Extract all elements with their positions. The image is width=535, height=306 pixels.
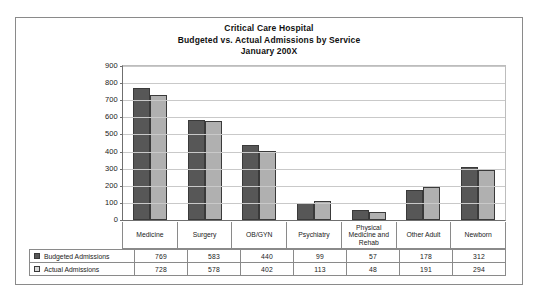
table-row: Actual Admissions72857840211348191294	[30, 263, 505, 276]
gridline	[123, 186, 505, 187]
bar-group	[396, 66, 451, 220]
bar-group	[450, 66, 505, 220]
plot-area	[122, 65, 506, 221]
chart-title-line-3: January 200X	[16, 46, 522, 58]
chart-figure: Critical Care Hospital Budgeted vs. Actu…	[15, 17, 523, 285]
table-value-cell: 769	[135, 250, 188, 262]
legend-swatch-icon	[34, 266, 40, 272]
y-axis-tickmark	[120, 134, 123, 135]
y-axis-tickmark	[120, 66, 123, 67]
legend-swatch-icon	[34, 253, 40, 259]
bar-groups	[123, 66, 505, 220]
bar-group	[123, 66, 178, 220]
y-axis-tickmark	[120, 152, 123, 153]
gridline	[123, 134, 505, 135]
category-label: OB/GYN	[232, 222, 287, 248]
bar	[369, 212, 386, 220]
category-label: Physical Medicine and Rehab	[342, 222, 397, 248]
bar	[461, 167, 478, 220]
y-axis-tickmark	[120, 220, 123, 221]
y-axis-tickmark	[120, 203, 123, 204]
table-value-cell: 578	[188, 263, 241, 275]
y-axis-tick-label: 800	[88, 79, 118, 87]
category-label: Psychiatry	[287, 222, 342, 248]
bar	[150, 95, 167, 220]
bar	[406, 190, 423, 220]
table-value-cell: 728	[135, 263, 188, 275]
bar-group	[232, 66, 287, 220]
table-value-cell: 312	[453, 250, 505, 262]
bar	[205, 121, 222, 220]
y-axis-tick-label: 700	[88, 96, 118, 104]
gridline	[123, 203, 505, 204]
bar	[478, 170, 495, 220]
chart-title-line-1: Critical Care Hospital	[16, 23, 522, 35]
y-axis-tickmark	[120, 169, 123, 170]
table-value-cell: 99	[294, 250, 347, 262]
chart-title-line-2: Budgeted vs. Actual Admissions by Servic…	[16, 35, 522, 47]
category-label-strip: MedicineSurgeryOB/GYNPsychiatryPhysical …	[122, 222, 506, 249]
category-label: Other Adult	[397, 222, 452, 248]
table-value-cell: 583	[188, 250, 241, 262]
chart-title-block: Critical Care Hospital Budgeted vs. Actu…	[16, 23, 522, 58]
y-axis-tickmark	[120, 117, 123, 118]
y-axis-tick-label: 900	[88, 62, 118, 70]
legend-label: Actual Admissions	[44, 266, 99, 273]
plot-wrapper: 9008007006005004003002001000	[122, 65, 512, 225]
bar-group	[287, 66, 342, 220]
gridline	[123, 169, 505, 170]
bar-group	[341, 66, 396, 220]
table-value-cell: 294	[453, 263, 505, 275]
table-value-cell: 178	[400, 250, 453, 262]
data-table: Budgeted Admissions7695834409957178312Ac…	[29, 249, 506, 276]
gridline	[123, 66, 505, 67]
legend-entry: Budgeted Admissions	[30, 250, 135, 262]
table-value-cell: 402	[241, 263, 294, 275]
table-value-cell: 440	[241, 250, 294, 262]
y-axis-tick-label: 500	[88, 130, 118, 138]
bar	[133, 88, 150, 220]
table-value-cell: 113	[294, 263, 347, 275]
table-value-cell: 57	[347, 250, 400, 262]
y-axis-tick-label: 300	[88, 165, 118, 173]
y-axis: 9008007006005004003002001000	[88, 65, 118, 221]
legend-entry: Actual Admissions	[30, 263, 135, 275]
table-row: Budgeted Admissions7695834409957178312	[30, 250, 505, 263]
bar	[242, 145, 259, 220]
y-axis-tick-label: 100	[88, 199, 118, 207]
y-axis-tick-label: 400	[88, 148, 118, 156]
category-label: Surgery	[178, 222, 233, 248]
y-axis-tickmark	[120, 100, 123, 101]
table-value-cell: 191	[400, 263, 453, 275]
bar-group	[178, 66, 233, 220]
bar	[352, 210, 369, 220]
gridline	[123, 117, 505, 118]
y-axis-tick-label: 0	[88, 216, 118, 224]
bar	[297, 203, 314, 220]
y-axis-tickmark	[120, 186, 123, 187]
gridline	[123, 100, 505, 101]
category-label: Newborn	[451, 222, 505, 248]
gridline	[123, 152, 505, 153]
y-axis-tick-label: 200	[88, 182, 118, 190]
gridline	[123, 83, 505, 84]
y-axis-tickmark	[120, 83, 123, 84]
legend-label: Budgeted Admissions	[44, 253, 109, 260]
category-label: Medicine	[123, 222, 178, 248]
y-axis-tick-label: 600	[88, 113, 118, 121]
table-value-cell: 48	[347, 263, 400, 275]
